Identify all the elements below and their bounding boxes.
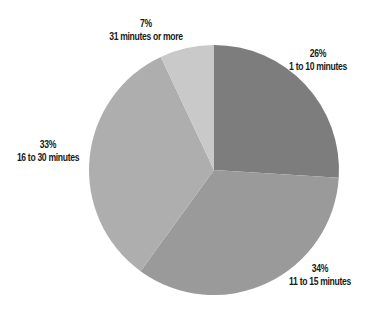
label-percent: 34% — [289, 262, 351, 275]
label-category: 11 to 15 minutes — [289, 275, 351, 288]
label-percent: 33% — [17, 138, 79, 151]
label-category: 31 minutes or more — [109, 30, 183, 43]
label-percent: 26% — [289, 47, 347, 60]
label-1-to-10-minutes: 26% 1 to 10 minutes — [289, 47, 347, 73]
label-31-minutes-or-more: 7% 31 minutes or more — [109, 17, 183, 43]
label-category: 16 to 30 minutes — [17, 151, 79, 164]
label-percent: 7% — [109, 17, 183, 30]
label-11-to-15-minutes: 34% 11 to 15 minutes — [289, 262, 351, 288]
label-category: 1 to 10 minutes — [289, 60, 347, 73]
label-16-to-30-minutes: 33% 16 to 30 minutes — [17, 138, 79, 164]
